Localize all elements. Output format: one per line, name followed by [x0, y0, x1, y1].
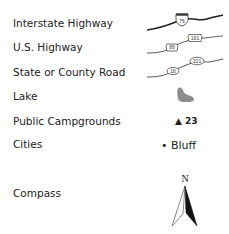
legend-label-interstate: Interstate Highway — [13, 17, 113, 29]
us-highway-shield-89: 89 — [169, 44, 175, 50]
us-highway-shield-icon: 89 — [166, 44, 178, 51]
lake-icon — [175, 86, 197, 104]
legend-label-state-road: State or County Road — [13, 66, 125, 78]
interstate-shield-number: 76 — [179, 18, 185, 24]
city-symbol: • Bluff — [161, 139, 196, 152]
us-highway-road-line — [147, 36, 223, 53]
city-dot-icon: • — [161, 139, 168, 152]
state-road-shield-icon: 16 — [167, 67, 179, 74]
legend-label-campgrounds: Public Campgrounds — [13, 115, 121, 127]
us-highway-shield-191: 191 — [191, 35, 200, 41]
north-arrow-light-half — [172, 186, 185, 226]
north-arrow-dark-half — [185, 186, 197, 226]
us-highway-road-symbol: 89 191 — [145, 33, 225, 57]
state-road-symbol: 16 101 — [145, 55, 225, 81]
interstate-road-symbol: 76 — [145, 10, 225, 34]
state-road-shield-icon: 101 — [190, 57, 204, 65]
campground-example-number: 23 — [185, 116, 198, 126]
legend-label-compass: Compass — [13, 187, 61, 199]
state-road-line — [147, 59, 223, 77]
compass-icon: N — [168, 172, 202, 230]
compass-north-label: N — [181, 173, 188, 184]
us-highway-shield-icon: 191 — [188, 35, 202, 42]
campground-triangle-icon: ▲ — [175, 116, 182, 126]
campground-symbol: ▲ 23 — [175, 116, 198, 126]
legend-label-us-highway: U.S. Highway — [13, 41, 83, 53]
legend-label-cities: Cities — [13, 138, 42, 150]
legend-label-lake: Lake — [13, 90, 37, 102]
interstate-shield-icon: 76 — [176, 14, 188, 27]
state-road-shield-16: 16 — [170, 68, 176, 74]
city-example-name: Bluff — [171, 139, 196, 152]
state-road-shield-101: 101 — [193, 58, 202, 64]
